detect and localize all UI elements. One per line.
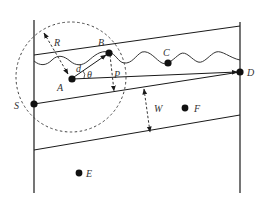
wavy-line xyxy=(34,52,240,65)
theta-angle-arc xyxy=(83,71,85,78)
point-f xyxy=(182,105,189,112)
label-b: B xyxy=(98,37,104,48)
line-a-to-d xyxy=(72,72,237,79)
lower-slanted-line xyxy=(34,115,240,150)
label-p: P xyxy=(113,69,120,80)
label-f: F xyxy=(193,103,201,114)
point-e xyxy=(76,170,83,177)
point-c xyxy=(164,59,171,66)
line-s-to-d xyxy=(34,72,240,104)
top-slanted-line xyxy=(34,26,240,55)
point-s xyxy=(30,100,37,107)
diagram-canvas: R d θ P W A B C D S E F xyxy=(0,0,263,201)
label-d-point: D xyxy=(246,67,255,78)
point-b xyxy=(105,49,112,56)
width-w-arrow xyxy=(144,89,150,132)
label-s: S xyxy=(14,100,19,111)
label-a: A xyxy=(56,82,64,93)
diagram-svg: R d θ P W A B C D S E F xyxy=(0,0,263,201)
label-w: W xyxy=(154,103,164,114)
label-e: E xyxy=(85,168,92,179)
label-theta: θ xyxy=(87,69,92,80)
label-r: R xyxy=(53,37,60,48)
point-d xyxy=(236,68,243,75)
label-c: C xyxy=(163,47,170,58)
point-a xyxy=(68,75,75,82)
